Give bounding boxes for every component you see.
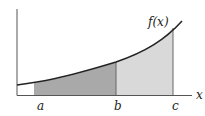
region-a-to-b: [34, 62, 116, 95]
point-label-a: a: [37, 99, 44, 113]
point-label-c: c: [172, 99, 179, 113]
x-axis-label: x: [196, 88, 203, 102]
function-label: f(x): [147, 15, 169, 29]
point-label-b: b: [114, 99, 122, 113]
integral-diagram: f(x) x a b c: [0, 0, 205, 116]
